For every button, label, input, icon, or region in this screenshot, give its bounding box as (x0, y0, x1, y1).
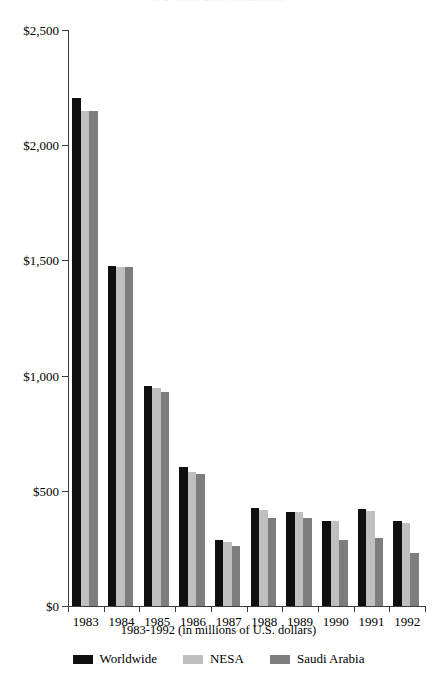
bar (196, 474, 205, 606)
bar (188, 472, 197, 606)
x-axis-tick (354, 606, 355, 612)
y-axis-label: $1,000 (23, 369, 59, 382)
y-axis-tick (62, 491, 69, 492)
bar (268, 518, 277, 606)
bar (251, 508, 260, 606)
bar-chart: U.S. Arms Sales Agreements $0$500$1,000$… (0, 0, 437, 690)
bar (366, 511, 375, 606)
bar (144, 386, 153, 606)
y-axis-tick (62, 30, 69, 31)
legend-label: Saudi Arabia (297, 652, 365, 666)
bar (232, 546, 241, 606)
y-axis-label: $2,000 (23, 139, 59, 152)
x-axis-tick (104, 606, 105, 612)
bar (410, 553, 419, 606)
bar (116, 267, 125, 606)
bar (303, 518, 312, 606)
bar (89, 111, 98, 606)
plot-area: $0$500$1,000$1,500$2,000$2,500 198319841… (68, 30, 425, 606)
chart-title: U.S. Arms Sales Agreements (0, 0, 437, 1)
bar (215, 540, 224, 606)
legend-item: NESA (183, 652, 244, 666)
y-axis-line (68, 30, 69, 607)
bar (179, 467, 188, 606)
bar (375, 538, 384, 606)
bar (322, 521, 331, 606)
y-axis-tick (62, 376, 69, 377)
x-axis-tick (68, 606, 69, 612)
legend-label: NESA (210, 652, 244, 666)
bar (295, 512, 304, 606)
x-axis-tick (139, 606, 140, 612)
bar (393, 521, 402, 606)
legend-swatch-icon (183, 655, 203, 664)
bar (161, 392, 170, 606)
x-axis-tick (282, 606, 283, 612)
legend-swatch-icon (73, 655, 93, 664)
legend-item: Worldwide (73, 652, 157, 666)
x-axis-tick (318, 606, 319, 612)
y-axis-label: $1,500 (23, 254, 59, 267)
bar (358, 509, 367, 606)
bar (331, 521, 340, 606)
bar (108, 266, 117, 606)
legend-swatch-icon (270, 655, 290, 664)
legend-item: Saudi Arabia (270, 652, 365, 666)
bar (125, 267, 134, 606)
y-axis-label: $500 (33, 484, 59, 497)
bar (152, 388, 161, 606)
x-axis-tick (175, 606, 176, 612)
bar (81, 111, 90, 606)
y-axis-tick (62, 145, 69, 146)
y-axis-label: $2,500 (23, 24, 59, 37)
bar (223, 542, 232, 607)
legend-label: Worldwide (100, 652, 157, 666)
bar (286, 512, 295, 606)
chart-legend: WorldwideNESASaudi Arabia (0, 652, 437, 666)
x-axis-tick (247, 606, 248, 612)
axis-caption: 1983-1992 (in millions of U.S. dollars) (0, 623, 437, 637)
bar (402, 523, 411, 606)
bar (339, 540, 348, 606)
x-axis-tick (389, 606, 390, 612)
x-axis-tick (425, 606, 426, 612)
y-axis-tick (62, 260, 69, 261)
bar (72, 98, 81, 606)
y-axis-label: $0 (46, 600, 59, 613)
x-axis-tick (211, 606, 212, 612)
bar (259, 510, 268, 606)
